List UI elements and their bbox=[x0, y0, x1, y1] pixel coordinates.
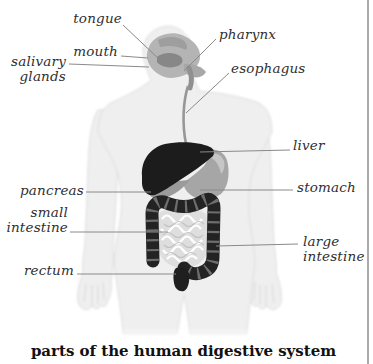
label-small-intestine: small intestine bbox=[0, 205, 68, 235]
leader-line-salivary-glands bbox=[69, 64, 149, 67]
small-intestine-shape bbox=[157, 208, 210, 268]
label-rectum: rectum bbox=[0, 263, 74, 278]
label-pharynx: pharynx bbox=[219, 27, 276, 42]
label-tongue: tongue bbox=[0, 11, 122, 26]
label-esophagus: esophagus bbox=[231, 61, 306, 76]
rectum-shape bbox=[173, 267, 189, 291]
label-salivary-glands: salivary glands bbox=[0, 54, 66, 84]
label-pancreas: pancreas bbox=[0, 183, 84, 198]
digestive-system-diagram: tongue mouth salivary glands pharynx eso… bbox=[0, 0, 373, 364]
label-liver: liver bbox=[293, 138, 325, 153]
label-large-intestine: large intestine bbox=[303, 234, 355, 264]
figure-caption: parts of the human digestive system bbox=[0, 342, 367, 360]
label-stomach: stomach bbox=[297, 180, 356, 195]
right-border-line bbox=[367, 0, 369, 364]
pharynx-shape bbox=[189, 68, 191, 88]
